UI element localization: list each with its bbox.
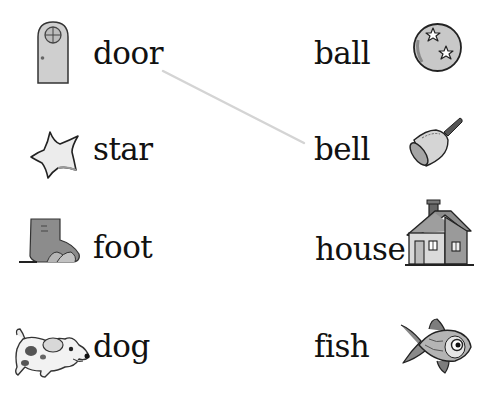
star-icon[interactable] xyxy=(30,130,80,179)
door-icon[interactable] xyxy=(36,21,70,84)
word-house[interactable]: house xyxy=(315,234,405,265)
house-icon[interactable] xyxy=(405,199,475,269)
word-foot[interactable]: foot xyxy=(93,232,152,263)
word-fish[interactable]: fish xyxy=(314,331,369,362)
match-line-door-bell[interactable] xyxy=(163,71,304,143)
word-bell[interactable]: bell xyxy=(314,134,370,165)
bell-icon[interactable] xyxy=(406,116,463,169)
word-door[interactable]: door xyxy=(93,38,163,69)
fish-icon[interactable] xyxy=(399,317,473,375)
ball-icon[interactable] xyxy=(412,22,463,73)
dog-icon[interactable] xyxy=(13,327,89,379)
word-star[interactable]: star xyxy=(93,134,153,165)
word-ball[interactable]: ball xyxy=(314,38,370,69)
word-dog[interactable]: dog xyxy=(93,331,150,362)
foot-icon[interactable] xyxy=(17,218,81,264)
